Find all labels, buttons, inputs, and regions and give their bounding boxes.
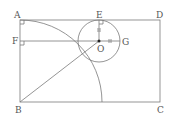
label-e: E	[96, 10, 103, 20]
arc-from-a	[20, 20, 102, 102]
label-c: C	[157, 105, 164, 115]
center-point-o	[98, 40, 101, 43]
label-a: A	[13, 10, 21, 20]
segment-bo	[20, 41, 99, 102]
right-angle-a	[20, 20, 24, 24]
label-d: D	[156, 10, 163, 20]
label-b: B	[15, 105, 22, 115]
geometry-diagram: A B C D E F G O	[0, 0, 173, 123]
label-o: O	[97, 44, 104, 54]
label-f: F	[12, 36, 18, 46]
label-g: G	[122, 37, 129, 47]
rectangle-abcd	[20, 20, 160, 102]
right-angle-f	[20, 41, 24, 45]
